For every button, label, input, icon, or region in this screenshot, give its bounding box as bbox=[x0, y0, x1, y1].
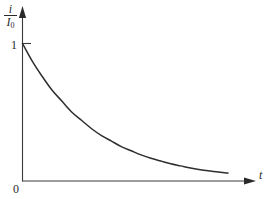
y-axis-denominator: I0 bbox=[5, 16, 17, 28]
decay-curve bbox=[23, 44, 229, 174]
y-axis-arrowhead bbox=[19, 6, 26, 18]
y-tick-label-one: 1 bbox=[11, 39, 17, 51]
y-axis-label: i I0 bbox=[4, 3, 17, 28]
y-axis-numerator: i bbox=[7, 3, 14, 15]
origin-label: 0 bbox=[13, 183, 19, 195]
exponential-decay-figure: i I0 1 0 t bbox=[0, 0, 271, 199]
x-axis-label: t bbox=[259, 169, 262, 181]
denominator-symbol: I bbox=[7, 15, 11, 29]
denominator-subscript: 0 bbox=[11, 21, 15, 30]
plot-canvas bbox=[0, 0, 271, 199]
x-axis-arrowhead bbox=[244, 177, 256, 184]
